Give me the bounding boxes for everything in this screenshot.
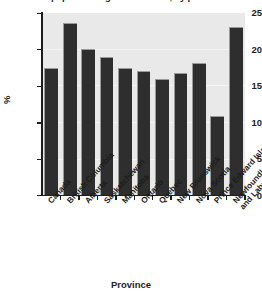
chart-title: Percent of population aged 12 or older, … bbox=[4, 0, 258, 3]
bar bbox=[100, 57, 114, 195]
bar bbox=[174, 73, 188, 195]
y-tick-mark-10 bbox=[37, 122, 41, 123]
bar-chart: Percent of population aged 12 or older, … bbox=[0, 0, 262, 296]
y-tick-mark-15 bbox=[37, 86, 41, 87]
bar bbox=[44, 68, 58, 195]
y-tick-mark-25 bbox=[37, 13, 41, 14]
y-tick-mark-5 bbox=[37, 159, 41, 160]
y-tick-mark-0 bbox=[37, 195, 41, 196]
y-tick-mark-20 bbox=[37, 49, 41, 50]
y-tick-label-25: 25 bbox=[226, 8, 262, 18]
y-axis-label: % bbox=[1, 96, 12, 104]
y-axis-line bbox=[41, 12, 43, 196]
bar bbox=[63, 23, 77, 195]
x-axis-title: Province bbox=[0, 279, 262, 290]
